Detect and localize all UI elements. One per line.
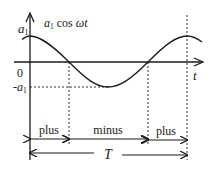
zero-label: 0: [17, 66, 23, 80]
segment-label-plus-1: plus: [39, 123, 59, 137]
t-axis-label: t: [193, 68, 197, 83]
segment-label-minus: minus: [93, 123, 123, 137]
y-top-label: a1: [18, 21, 29, 37]
curve-label: a1 cos ωt: [44, 16, 88, 31]
neg-amplitude-label: -a1: [13, 80, 27, 95]
period-label: T: [104, 147, 113, 162]
segment-label-plus-2: plus: [156, 124, 176, 138]
cosine-sign-diagram: a1 a1 cos ωt 0 -a1 t plus minus plus T: [0, 0, 214, 170]
